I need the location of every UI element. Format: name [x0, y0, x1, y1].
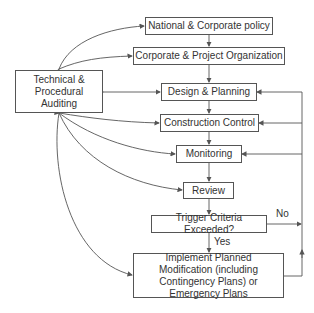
- node-monitoring: Monitoring: [176, 145, 242, 163]
- node-implement-label: Implement Planned Modification (includin…: [140, 252, 277, 300]
- edge-label-no: No: [276, 208, 289, 219]
- node-implement: Implement Planned Modification (includin…: [133, 253, 284, 298]
- node-trigger: Trigger Criteria Exceeded?: [151, 215, 267, 233]
- node-trigger-label: Trigger Criteria Exceeded?: [152, 212, 266, 236]
- node-organization-label: Corporate & Project Organization: [135, 50, 282, 62]
- node-design: Design & Planning: [161, 83, 257, 101]
- node-policy: National & Corporate policy: [145, 17, 273, 35]
- edge-label-yes: Yes: [214, 236, 230, 247]
- node-design-label: Design & Planning: [168, 86, 250, 98]
- node-construction-label: Construction Control: [164, 117, 255, 129]
- node-review: Review: [183, 182, 234, 199]
- node-policy-label: National & Corporate policy: [148, 20, 270, 32]
- node-organization: Corporate & Project Organization: [133, 47, 285, 65]
- node-review-label: Review: [192, 185, 225, 197]
- node-auditing-label: Technical & Procedural Auditing: [22, 74, 96, 110]
- node-monitoring-label: Monitoring: [186, 148, 233, 160]
- node-construction: Construction Control: [160, 114, 259, 132]
- node-auditing: Technical & Procedural Auditing: [15, 70, 103, 113]
